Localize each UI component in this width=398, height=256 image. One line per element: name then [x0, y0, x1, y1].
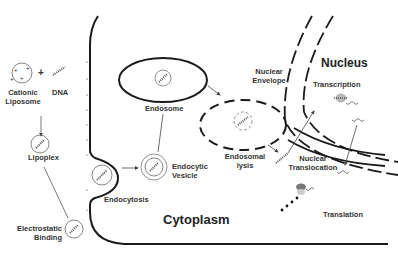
- label-line: Cationic: [5, 88, 41, 97]
- label-dna: DNA: [52, 88, 68, 97]
- endosome: [119, 58, 207, 102]
- svg-text:+: +: [20, 75, 24, 81]
- released-dna-icon: [234, 112, 252, 130]
- label-line: Nuclear: [251, 67, 287, 76]
- label-line: lysis: [223, 161, 267, 170]
- label-line: Liposome: [5, 97, 41, 106]
- label-endocytosis: Endocytosis: [104, 195, 149, 204]
- endosome-lipoplex-icon: [155, 70, 171, 86]
- arrow-lysis-to-dna: [268, 145, 278, 152]
- transcription-complex-icon: [334, 94, 358, 105]
- cationic-liposome-icon: + + + +: [10, 63, 32, 83]
- label-transcription: Transcription: [313, 80, 361, 89]
- bound-lipoplex-icon: [65, 220, 83, 238]
- mrna-icon: [352, 119, 364, 122]
- arrow-vesicle-to-endosome: [158, 114, 163, 152]
- label-translation: Translation: [323, 210, 363, 219]
- polypeptide-chain-icon: [281, 197, 299, 212]
- arrow-lipoplex-to-binding: [44, 167, 68, 218]
- label-nucleus: Nucleus: [321, 56, 368, 70]
- label-line: Vesicle: [172, 171, 208, 180]
- lipoplex-icon: [31, 135, 49, 153]
- endocytosis-lipoplex-icon: [92, 165, 112, 185]
- endocytic-vesicle-icon: [141, 154, 167, 180]
- label-cytoplasm: Cytoplasm: [163, 212, 229, 227]
- arrow-mrna-export: [345, 125, 357, 165]
- label-line: Nuclear: [286, 154, 340, 163]
- label-lipoplex: Lipoplex: [28, 153, 59, 162]
- label-electrostatic-binding: Electrostatic Binding: [12, 224, 62, 242]
- label-line: Envelope: [251, 76, 287, 85]
- label-nuclear-envelope: Nuclear Envelope: [251, 67, 287, 85]
- label-line: Binding: [12, 233, 62, 242]
- ribosome-icon: [296, 184, 314, 196]
- label-nuclear-translocation: Nuclear Translocation: [286, 154, 340, 172]
- svg-text:+: +: [10, 76, 14, 82]
- label-line: Endocytic: [172, 162, 208, 171]
- label-endosomal-lysis: Endosomal lysis: [223, 152, 267, 170]
- nuclear-membrane-lower-1: [294, 128, 385, 155]
- arrow-endosome-to-lysis: [208, 86, 220, 95]
- svg-text:+: +: [14, 67, 18, 73]
- label-line: Endosomal: [223, 152, 267, 161]
- label-plus: +: [38, 68, 44, 77]
- membrane-charges: [86, 61, 87, 210]
- endosomal-lysis: [200, 100, 286, 150]
- label-line: Electrostatic: [12, 224, 62, 233]
- dna-icon: [53, 67, 65, 75]
- label-cationic-liposome: Cationic Liposome: [5, 88, 41, 106]
- label-endosome: Endosome: [145, 104, 183, 113]
- label-endocytic-vesicle: Endocytic Vesicle: [172, 162, 208, 180]
- svg-text:+: +: [26, 65, 30, 71]
- label-line: Translocation: [286, 163, 340, 172]
